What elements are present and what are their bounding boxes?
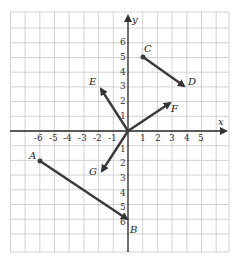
x-tick-labels: -6 -5 -4 -3 -2 -1 1 2 3 4 5: [34, 133, 204, 143]
svg-text:-4: -4: [63, 133, 72, 143]
svg-text:6: 6: [120, 37, 126, 47]
svg-text:1: 1: [120, 144, 126, 154]
svg-text:-2: -2: [93, 133, 102, 143]
point-d-label: D: [187, 76, 196, 87]
coordinate-plane: x y -6 -5 -4 -3 -2 -1 1 2 3 4 5 6 5 4 3 …: [0, 0, 236, 260]
grid: [10, 12, 229, 252]
y-axis-label: y: [131, 14, 138, 25]
svg-text:3: 3: [120, 173, 126, 183]
point-a-label: A: [28, 150, 36, 161]
svg-text:4: 4: [120, 188, 126, 198]
svg-text:5: 5: [120, 52, 126, 62]
point-e-label: E: [88, 76, 97, 87]
y-tick-labels: 6 5 4 3 2 1 1 2 3 4 5 6: [120, 37, 126, 227]
svg-text:4: 4: [184, 133, 190, 143]
svg-text:2: 2: [120, 158, 126, 168]
svg-text:-1: -1: [108, 133, 117, 143]
x-axis-label: x: [218, 116, 224, 127]
svg-text:4: 4: [120, 67, 126, 77]
vector-cd: [143, 57, 184, 86]
svg-text:2: 2: [120, 96, 126, 106]
point-b-label: B: [129, 224, 137, 235]
point-g-label: G: [89, 166, 97, 177]
svg-text:-3: -3: [78, 133, 87, 143]
svg-text:5: 5: [120, 202, 126, 212]
point-c-label: C: [144, 43, 152, 54]
point-f-label: F: [170, 103, 179, 114]
svg-text:1: 1: [140, 133, 146, 143]
svg-text:3: 3: [120, 81, 126, 91]
svg-text:-5: -5: [49, 133, 58, 143]
vector-of: [128, 103, 170, 131]
svg-text:3: 3: [169, 133, 175, 143]
svg-text:2: 2: [155, 133, 161, 143]
svg-text:5: 5: [198, 133, 204, 143]
svg-text:-6: -6: [34, 133, 43, 143]
